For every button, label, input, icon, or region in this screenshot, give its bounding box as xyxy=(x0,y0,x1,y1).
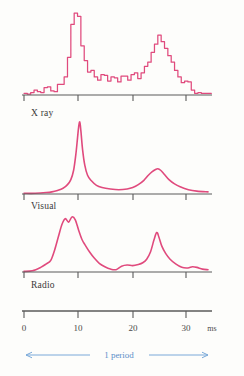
visual-curve xyxy=(24,122,208,193)
period-annotation: 1 period xyxy=(26,350,208,360)
pulsar-light-curve-figure: X ray Visual Radio xyxy=(0,0,244,376)
time-tick-label-30: 30 xyxy=(182,323,192,333)
time-tick-label-20: 20 xyxy=(129,323,139,333)
x-ray-curve xyxy=(24,13,211,94)
time-axis-unit-label: ms xyxy=(207,324,216,333)
panel-x-ray: X ray xyxy=(22,13,212,118)
time-axis: 0 10 20 30 ms xyxy=(22,311,217,333)
radio-curve xyxy=(24,217,208,272)
panel-label-radio: Radio xyxy=(31,280,55,290)
time-tick-label-10: 10 xyxy=(74,323,84,333)
time-tick-label-0: 0 xyxy=(22,323,27,333)
panel-label-visual: Visual xyxy=(31,201,57,211)
panel-label-x-ray: X ray xyxy=(31,108,53,118)
period-label: 1 period xyxy=(104,350,134,360)
panel-visual: Visual xyxy=(22,122,212,211)
panel-radio: Radio xyxy=(22,217,212,290)
figure-svg: X ray Visual Radio xyxy=(0,0,244,376)
